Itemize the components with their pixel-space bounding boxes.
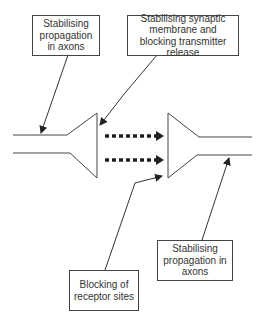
label-axon-right-text: Stabilising propagation in axons [160,243,230,278]
label-receptor-text: Blocking of receptor sites [72,279,136,302]
label-axon-left-text: Stabilising propagation in axons [35,18,97,53]
transmitter-arrows [105,131,164,165]
label-synaptic-membrane: Stabilising synaptic membrane and blocki… [127,15,239,56]
presynaptic-terminal [13,113,97,178]
pointer-arrow-receptor [105,176,162,270]
postsynaptic-terminal [168,113,252,178]
label-axon-right: Stabilising propagation in axons [157,240,233,281]
label-synaptic-membrane-text: Stabilising synaptic membrane and blocki… [130,13,236,59]
label-receptor: Blocking of receptor sites [69,270,139,311]
pointer-arrow-axon-left [41,55,68,133]
pointer-arrow-axon-right [202,158,229,240]
pointer-arrow-synaptic-membrane [100,55,157,125]
label-axon-left: Stabilising propagation in axons [32,15,100,56]
